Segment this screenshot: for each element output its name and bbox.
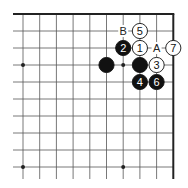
star-point [21, 63, 25, 67]
move-number-6: 6 [154, 76, 160, 88]
star-point [121, 165, 125, 169]
move-number-4: 4 [137, 76, 143, 88]
move-number-5: 5 [137, 25, 143, 37]
move-number-7: 7 [170, 42, 176, 54]
black-stone [132, 57, 147, 72]
point-label-b: B [120, 25, 127, 37]
move-number-3: 3 [154, 59, 160, 71]
point-label-a: A [153, 42, 161, 54]
move-number-2: 2 [120, 42, 126, 54]
black-stone [99, 57, 114, 72]
star-point [21, 165, 25, 169]
move-number-1: 1 [137, 42, 143, 54]
go-board: BA1234567 [0, 0, 188, 188]
star-point [121, 63, 125, 67]
